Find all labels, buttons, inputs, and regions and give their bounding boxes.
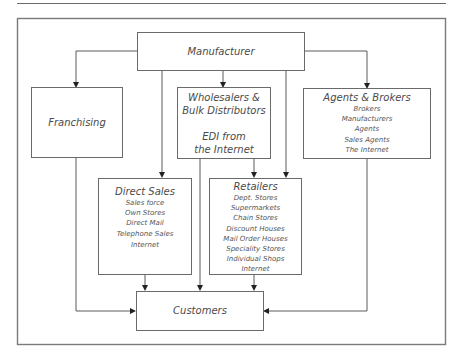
direct-sales-label: Direct Sales Sales force Own Stores Dire…: [98, 185, 192, 250]
wholesalers-title-line: Wholesalers &: [177, 91, 271, 104]
agents-item: The Internet: [303, 145, 431, 155]
agents-item: Brokers: [303, 104, 431, 114]
wholesalers-sub-line: the Internet: [177, 143, 271, 156]
customers-label: Customers: [136, 304, 264, 317]
agents-item: Agents: [303, 124, 431, 134]
retailers-item: Chain Stores: [209, 213, 302, 223]
retailers-title: Retailers: [209, 180, 302, 193]
retailers-item: Mail Order Houses: [209, 234, 302, 244]
retailers-item: Individual Shops: [209, 254, 302, 264]
direct-sales-title: Direct Sales: [98, 185, 192, 198]
wholesalers-sub-line: EDI from: [177, 130, 271, 143]
agents-label: Agents & Brokers Brokers Manufacturers A…: [303, 91, 431, 155]
edge-manufacturer-agents: [304, 51, 367, 85]
arrowhead-icon: [159, 172, 165, 178]
direct-sales-item: Sales force: [98, 198, 192, 208]
wholesalers-title-line: Bulk Distributors: [177, 104, 271, 117]
arrowhead-icon: [197, 285, 203, 291]
direct-sales-item: Own Stores: [98, 208, 192, 218]
manufacturer-label: Manufacturer: [137, 45, 305, 58]
arrowhead-icon: [251, 172, 257, 178]
franchising-label: Franchising: [31, 116, 123, 129]
agents-item: Sales Agents: [303, 135, 431, 145]
agents-title: Agents & Brokers: [303, 91, 431, 104]
retailers-item: Speciality Stores: [209, 244, 302, 254]
direct-sales-item: Direct Mail: [98, 218, 192, 228]
arrowhead-icon: [142, 285, 148, 291]
arrowhead-icon: [251, 285, 257, 291]
retailers-item: Dept. Stores: [209, 193, 302, 203]
direct-sales-item: Telephone Sales: [98, 229, 192, 239]
arrowhead-icon: [283, 172, 289, 178]
wholesalers-label: Wholesalers & Bulk Distributors EDI from…: [177, 91, 271, 156]
agents-item: Manufacturers: [303, 114, 431, 124]
retailers-item: Internet: [209, 264, 302, 274]
retailers-item: Supermarkets: [209, 203, 302, 213]
edge-manufacturer-franchising: [76, 51, 137, 84]
retailers-item: Discount Houses: [209, 224, 302, 234]
direct-sales-item: Internet: [98, 240, 192, 250]
retailers-label: Retailers Dept. Stores Supermarkets Chai…: [209, 180, 302, 275]
